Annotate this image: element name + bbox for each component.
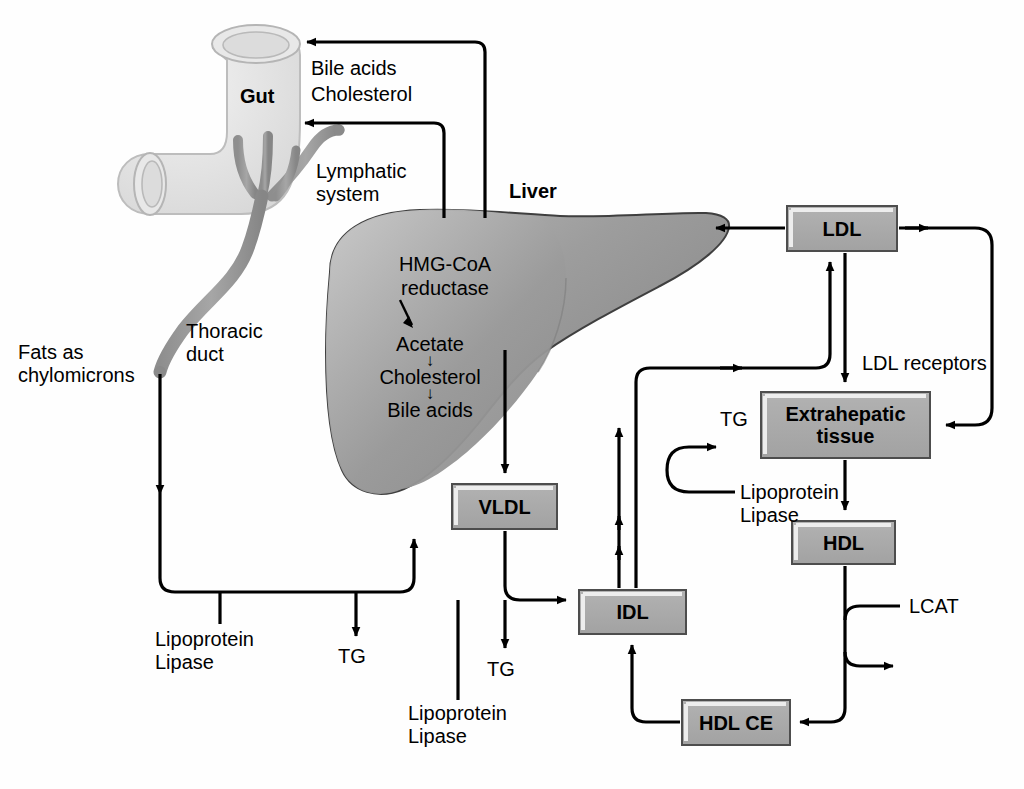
gut-label: Gut: [240, 85, 274, 108]
hmgcoa-reductase-label: HMG-CoA reductase: [360, 252, 530, 300]
edge-hdlce-to-idl: [632, 645, 680, 722]
lipoprotein-lipase-left-label: Lipoprotein Lipase: [155, 628, 254, 674]
lymphatic-system-label: Lymphatic system: [316, 160, 406, 206]
box-hdlce[interactable]: [682, 700, 790, 745]
box-vldl[interactable]: [452, 484, 557, 529]
diagram-canvas: LDL Extrahepatic tissue HDL VLDL IDL HDL…: [0, 0, 1024, 789]
edge-lcat-product: [845, 652, 893, 666]
thoracic-duct-label: Thoracic duct: [186, 320, 263, 366]
lipoprotein-lipase-mid-label: Lipoprotein Lipase: [408, 702, 507, 748]
edge-vldl-down: [505, 531, 566, 600]
liver-label: Liver: [509, 180, 557, 203]
edge-hdl-to-hdlce: [800, 566, 845, 722]
edge-chylomicrons-to-liver: [160, 494, 414, 592]
gut-organ-illustration: [118, 25, 300, 215]
box-extrahepatic[interactable]: [761, 392, 930, 458]
tg-left-label: TG: [338, 645, 366, 668]
box-hdl[interactable]: [792, 521, 895, 564]
ldl-receptors-label: LDL receptors: [862, 352, 987, 375]
edge-ll-right-hook: [667, 447, 735, 492]
tg-mid-label: TG: [487, 658, 515, 681]
cholesterol-top-label: Cholesterol: [311, 83, 412, 106]
fats-as-chylomicrons-label: Fats as chylomicrons: [18, 341, 135, 387]
tg-right-label: TG: [720, 408, 748, 431]
lcat-label: LCAT: [909, 595, 959, 618]
edge-ll-mid-join: [458, 590, 472, 600]
box-idl[interactable]: [579, 590, 686, 634]
edge-lcat-tick: [845, 606, 900, 620]
bile-acids-label: Bile acids: [311, 57, 397, 80]
liver-step-bile-acids: Bile acids: [355, 398, 505, 422]
box-ldl[interactable]: [787, 206, 897, 251]
lipoprotein-lipase-right-label: Lipoprotein Lipase: [740, 481, 839, 527]
